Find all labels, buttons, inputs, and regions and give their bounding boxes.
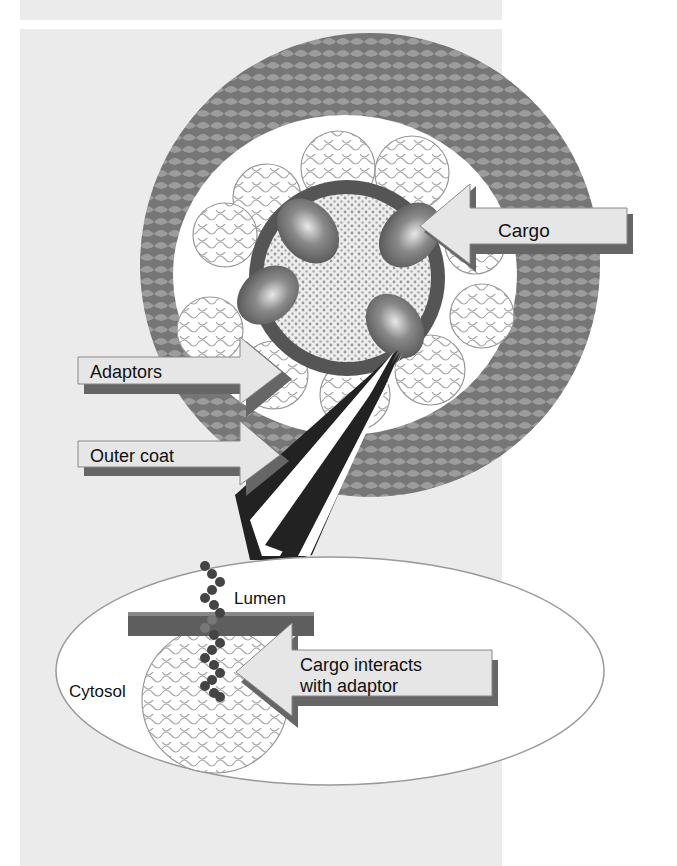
label-outer-coat: Outer coat <box>90 446 174 466</box>
label-cargo: Cargo <box>498 220 550 241</box>
label-lumen: Lumen <box>234 589 286 608</box>
label-cargo-interacts-line2: with adaptor <box>299 676 398 696</box>
label-cargo-interacts-line1: Cargo interacts <box>300 655 422 675</box>
label-cytosol: Cytosol <box>69 682 126 701</box>
label-adaptors: Adaptors <box>90 362 162 382</box>
vesicle-diagram: Cargo Adaptors Outer coat Cargo interact… <box>0 0 677 866</box>
